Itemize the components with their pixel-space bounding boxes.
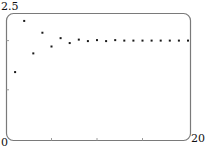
data-point: [41, 32, 43, 34]
origin-label: 0: [1, 137, 8, 148]
data-point: [132, 40, 134, 42]
data-point: [78, 39, 80, 41]
data-point: [160, 40, 162, 42]
data-point: [69, 42, 71, 44]
data-points: [14, 20, 189, 73]
data-point: [60, 37, 62, 39]
data-point: [169, 40, 171, 42]
data-point: [187, 40, 189, 42]
data-point: [151, 40, 153, 42]
data-point: [23, 20, 25, 22]
data-point: [32, 52, 34, 54]
data-point: [142, 40, 144, 42]
y-axis-max-label: 2.5: [1, 1, 19, 12]
scatter-plot: [0, 0, 207, 148]
data-point: [105, 40, 107, 42]
plot-frame: [7, 14, 191, 141]
data-point: [51, 46, 53, 48]
x-axis-max-label: 20: [191, 133, 205, 144]
axis-ticks: [7, 41, 143, 141]
data-point: [14, 71, 16, 73]
data-point: [96, 39, 98, 41]
data-point: [114, 39, 116, 41]
data-point: [87, 40, 89, 42]
data-point: [123, 40, 125, 42]
data-point: [178, 40, 180, 42]
